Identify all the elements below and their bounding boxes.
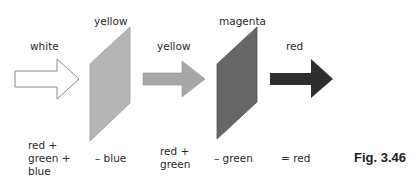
label-incident-composition: red + green + blue xyxy=(28,139,70,178)
label-minus-green: – green xyxy=(214,152,253,165)
label-after-filter1: red + green xyxy=(160,145,190,171)
label-equals-red: = red xyxy=(281,152,310,165)
label-red-light: red xyxy=(286,40,303,53)
yellow-light-arrow xyxy=(143,61,205,97)
label-minus-blue: – blue xyxy=(95,152,126,165)
yellow-filter xyxy=(90,27,130,141)
figure-caption: Fig. 3.46 xyxy=(354,150,406,165)
label-yellow-light: yellow xyxy=(157,40,191,53)
red-light-arrow xyxy=(270,59,333,98)
label-magenta-filter: magenta xyxy=(219,15,266,28)
label-yellow-filter: yellow xyxy=(94,15,128,28)
label-white: white xyxy=(30,40,59,53)
white-light-arrow xyxy=(15,59,79,99)
magenta-filter xyxy=(217,27,257,139)
